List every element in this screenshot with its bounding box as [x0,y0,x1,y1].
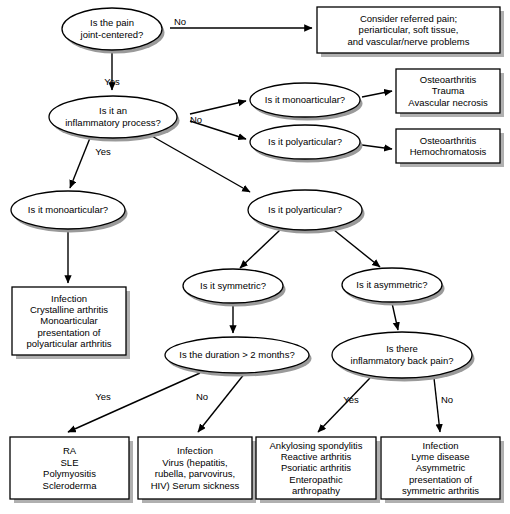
decision-polyarticular-noninflammatory: Is it polyarticular? [250,125,363,163]
decision-monoarticular-inflammatory: Is it monoarticular? [11,191,128,233]
osteoarthritis-hemochromatosis-outcome-line: Hemochromatosis [410,146,487,157]
label-backpain-yes: Yes [343,394,359,405]
monoarticular-infection-outcome-line: polyarticular arthritis [27,338,112,349]
edge-poly-to-asymmetric [334,230,380,267]
osteoarthritis-hemochromatosis-outcome-line: Osteoarthritis [420,135,477,146]
decision-polyarticular-inflammatory-line: Is it polyarticular? [268,204,342,215]
edge-duration-no-to-infection [198,373,245,432]
osteoarthritis-trauma-outcome-line: Osteoarthritis [420,74,477,85]
decision-pain-joint-centered-line: Is the pain [90,17,134,28]
referred-pain-outcome-line: and vascular/nerve problems [348,36,470,47]
monoarticular-infection-outcome: InfectionCrystalline arthritisMonoarticu… [12,287,130,359]
edge-poly-to-symmetric [240,230,280,268]
decision-polyarticular-noninflammatory-line: Is it polyarticular? [268,136,342,147]
decision-inflammatory-back-pain: Is thereinflammatory back pain? [332,332,475,382]
osteoarthritis-trauma-outcome-line: Avascular necrosis [408,97,488,108]
label-duration-no: No [196,391,208,402]
lyme-asymmetric-outcome-line: symmetric arthritis [402,485,479,496]
decision-polyarticular-inflammatory: Is it polyarticular? [248,190,365,234]
decision-symmetric: Is it symmetric? [183,269,286,307]
osteoarthritis-hemochromatosis-outcome: OsteoarthritisHemochromatosis [396,129,504,167]
decision-duration-over-2-months: Is the duration > 2 months? [165,337,312,377]
infection-virus-outcome-line: HIV) Serum sickness [151,480,240,491]
decision-asymmetric: Is it asymmetric? [342,268,445,306]
monoarticular-infection-outcome-line: Crystalline arthritis [30,304,108,315]
edge-asymmetric-to-backpain [392,303,398,330]
monoarticular-infection-outcome-line: Infection [51,293,87,304]
infection-virus-outcome-line: Virus (hepatitis, [162,457,227,468]
edge-backpain-yes-to-spondy [318,378,370,432]
decision-monoarticular-inflammatory-line: Is it monoarticular? [28,204,108,215]
osteoarthritis-trauma-outcome-line: Trauma [432,85,465,96]
lyme-asymmetric-outcome-line: Asymmetric [416,462,466,473]
lyme-asymmetric-outcome-line: Lyme disease [411,451,469,462]
spondyloarthropathy-outcome-line: Ankylosing spondylitis [270,440,363,451]
spondyloarthropathy-outcome: Ankylosing spondylitisReactive arthritis… [256,437,380,503]
lyme-asymmetric-outcome-line: presentation of [409,474,472,485]
decision-inflammatory-back-pain-line: inflammatory back pain? [351,355,454,366]
monoarticular-infection-outcome-line: Monoarticular [40,315,98,326]
ra-sle-outcome-line: SLE [61,457,79,468]
outcome-boxes-group: Consider referred pain;periarticular, so… [10,7,504,503]
infection-virus-outcome-line: rubella, parvovirus, [155,468,235,479]
edge-inflammatory-yes-to-mono [70,138,90,188]
referred-pain-outcome-line: periarticular, soft tissue, [359,24,459,35]
decision-inflammatory-back-pain-line: Is there [386,343,418,354]
flowchart-canvas: Consider referred pain;periarticular, so… [0,0,510,514]
decision-monoarticular-noninflammatory: Is it monoarticular? [250,83,363,121]
decision-inflammatory-process-line: Is it an [99,105,127,116]
spondyloarthropathy-outcome-line: Enteropathic [289,474,343,485]
label-duration-yes: Yes [95,391,111,402]
decision-duration-over-2-months-line: Is the duration > 2 months? [179,349,294,360]
osteoarthritis-trauma-outcome: OsteoarthritisTraumaAvascular necrosis [396,69,504,117]
edge-poly-to-osteo-hemo [362,145,392,149]
lyme-asymmetric-outcome: InfectionLyme diseaseAsymmetricpresentat… [381,437,504,503]
decision-monoarticular-noninflammatory-line: Is it monoarticular? [265,94,345,105]
label-inflammatory-no: No [190,114,202,125]
ra-sle-outcome-line: RA [63,445,77,456]
infection-virus-outcome: InfectionVirus (hepatitis,rubella, parvo… [138,437,256,503]
infection-virus-outcome-line: Infection [177,445,213,456]
monoarticular-infection-outcome-line: presentation of [38,327,101,338]
edge-inflammatory-no-to-mono [190,101,246,114]
decision-inflammatory-process: Is it aninflammatory process? [49,96,180,142]
decision-pain-joint-centered-line: joint-centered? [80,29,144,40]
label-pain-no: No [174,16,186,27]
ra-sle-outcome-line: Polymyositis [43,468,96,479]
lyme-asymmetric-outcome-line: Infection [423,440,459,451]
ra-sle-outcome-line: Scleroderma [43,480,98,491]
spondyloarthropathy-outcome-line: Reactive arthritis [281,451,352,462]
spondyloarthropathy-outcome-line: Psoriatic arthritis [281,462,351,473]
edge-duration-yes-to-ra [68,373,200,432]
decision-symmetric-line: Is it symmetric? [200,280,266,291]
edge-backpain-no-to-lyme [434,378,440,432]
spondyloarthropathy-outcome-line: arthropathy [292,485,340,496]
flowchart-svg: Consider referred pain;periarticular, so… [0,0,510,514]
referred-pain-outcome-line: Consider referred pain; [360,13,457,24]
label-inflammatory-yes: Yes [95,146,111,157]
edge-inflammatory-yes-to-poly [150,135,250,192]
decision-pain-joint-centered: Is the painjoint-centered? [62,8,165,54]
decision-asymmetric-line: Is it asymmetric? [356,279,427,290]
edge-mono-to-osteo-trauma [362,91,392,97]
label-pain-yes: Yes [104,76,120,87]
referred-pain-outcome: Consider referred pain;periarticular, so… [317,7,504,57]
ra-sle-outcome: RASLEPolymyositisScleroderma [10,437,133,503]
decision-inflammatory-process-line: inflammatory process? [65,117,161,128]
label-backpain-no: No [441,394,453,405]
